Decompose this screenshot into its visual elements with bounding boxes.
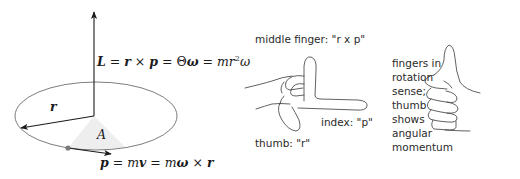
index-finger-label: index: "p" [321,116,373,128]
right-hand-rule-caption: fingers in rotation sense; thumb shows a… [392,56,453,154]
radius-label: r [50,99,57,114]
radius-vector [21,116,94,128]
angular-momentum-formula: L = r × p = Θω = mr2ω [97,54,250,69]
mass-point [65,145,70,150]
middle-finger-label: middle finger: "r x p" [255,33,365,45]
area-label: A [97,127,106,142]
symbol-L: L [97,54,106,69]
momentum-formula: p = mv = mω × r [100,155,214,170]
thumb-label: thumb: "r" [255,137,310,149]
